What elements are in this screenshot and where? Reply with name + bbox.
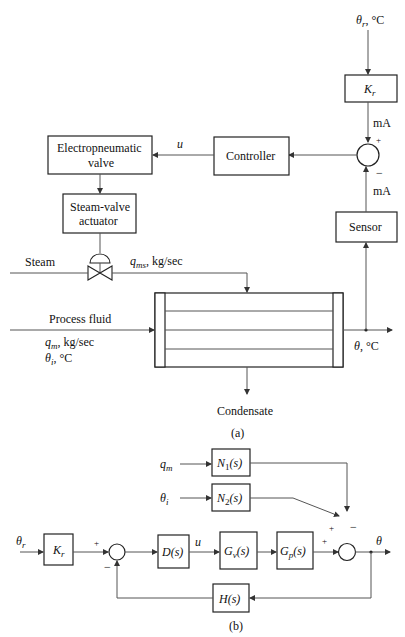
steam-flow-label: qms, kg/sec [130, 254, 183, 270]
actuator-label-2: actuator [79, 214, 118, 228]
block-diagram-b: qm N1(s) θi N2(s) + − + θr Kr + − D(s) u… [16, 449, 390, 633]
gv-label: Gv(s) [224, 544, 249, 560]
reference-temp-label: θr, °C [356, 13, 384, 29]
sum2-minus-n1: − [350, 520, 357, 534]
sum-plus: + [376, 135, 381, 145]
process-flow-label: qm, kg/sec [45, 335, 94, 351]
process-fluid-label: Process fluid [49, 312, 111, 326]
theta-r-input-label: θr [16, 534, 26, 550]
valve-actuator-dome-icon [90, 254, 110, 263]
steam-label: Steam [25, 255, 56, 269]
sum1-plus: + [94, 538, 99, 548]
exchanger-left-header [155, 293, 165, 367]
condensate-label: Condensate [217, 404, 273, 418]
n1-label: N1(s) [216, 456, 242, 472]
n1-to-sum-arrow [250, 463, 347, 511]
outlet-temp-label: θ, °C [354, 339, 379, 353]
theta-output-label: θ [376, 534, 382, 548]
exchanger-right-header [333, 293, 343, 367]
diagram-canvas: θr, °C Kr mA + − mA Controller u Electro… [0, 0, 405, 637]
electropneumatic-label-1: Electropneumatic [57, 141, 142, 155]
ma-top-label: mA [373, 116, 391, 130]
summing-junction-2 [339, 544, 356, 561]
gp-label: Gp(s) [280, 544, 306, 560]
n2-to-sum-arrow [250, 498, 339, 516]
h-label: H(s) [218, 592, 240, 606]
inlet-temp-label: θi, °C [45, 351, 72, 367]
ma-bottom-label: mA [373, 184, 391, 198]
actuator-label-1: Steam-valve [70, 200, 130, 214]
controller-label: Controller [226, 149, 275, 163]
d-label: D(s) [161, 545, 183, 559]
sum1-minus: − [104, 560, 111, 574]
n2-label: N2(s) [216, 491, 242, 507]
caption-b: (b) [229, 619, 243, 633]
electropneumatic-label-2: valve [88, 156, 114, 170]
u-label-b: u [195, 535, 201, 549]
summing-junction-a [357, 144, 379, 166]
sensor-label: Sensor [349, 220, 382, 234]
sum2-plus-gp: + [322, 536, 327, 546]
u-label: u [177, 137, 183, 151]
caption-a: (a) [231, 426, 244, 440]
qm-input-label: qm [160, 457, 173, 473]
theta-i-input-label: θi [160, 491, 169, 507]
process-diagram-a: θr, °C Kr mA + − mA Controller u Electro… [10, 13, 397, 440]
sum-minus: − [376, 166, 383, 180]
sum2-plus-n2: + [329, 523, 334, 533]
summing-junction-1 [109, 544, 125, 560]
